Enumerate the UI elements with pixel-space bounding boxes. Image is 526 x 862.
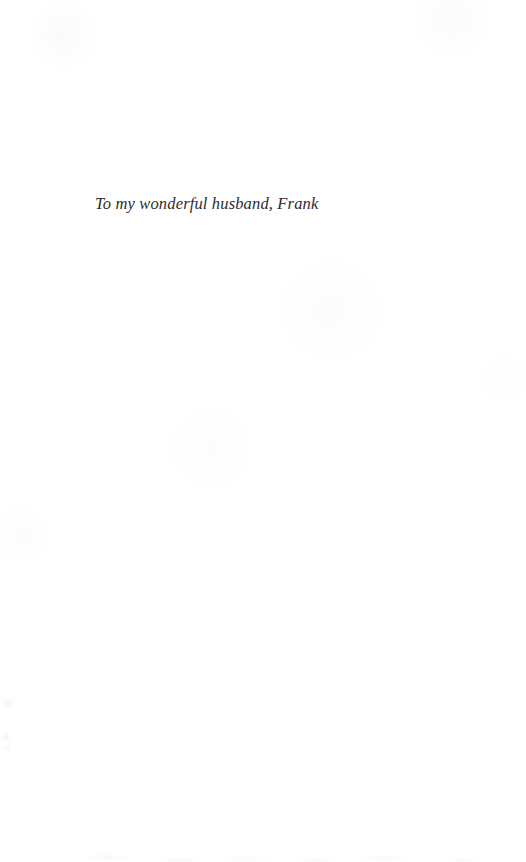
scan-paper-texture bbox=[0, 0, 526, 862]
dedication-block: To my wonderful husband, Frank bbox=[95, 193, 435, 215]
scan-speckle-bottom-edge bbox=[0, 802, 526, 862]
dedication-text: To my wonderful husband, Frank bbox=[95, 193, 435, 215]
dedication-page: To my wonderful husband, Frank bbox=[0, 0, 526, 862]
scan-speckle-left-edge bbox=[0, 690, 26, 820]
